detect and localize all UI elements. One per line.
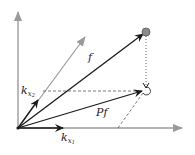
k-x2-label: kx2 [21, 85, 35, 98]
f-label: f [88, 52, 92, 63]
f-vector [18, 34, 143, 128]
projection-diagram: f Pf kx2 kx1 [0, 0, 195, 155]
k-x1-main: k [61, 131, 68, 144]
Pf-vector [18, 91, 142, 128]
Pf-point [143, 87, 150, 95]
diagram-canvas [0, 0, 195, 155]
Pf-label: Pf [96, 107, 107, 118]
origin-point [16, 126, 19, 129]
f-label-text: f [88, 51, 92, 64]
k-x2-vector [18, 100, 38, 128]
k-x2-main: k [21, 84, 28, 97]
f-point [142, 28, 150, 36]
k-x1-subsub: 1 [72, 139, 75, 145]
slant-dashed-guide [118, 93, 143, 128]
Pf-label-text: Pf [96, 106, 107, 119]
k-x2-subsub: 2 [32, 92, 35, 98]
k-x1-label: kx1 [61, 132, 75, 145]
